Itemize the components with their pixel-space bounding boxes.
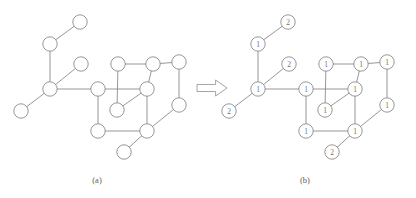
node-circle xyxy=(117,145,131,159)
node-label: 2 xyxy=(286,18,290,27)
graph-edge xyxy=(331,93,349,106)
node-label: 1 xyxy=(256,85,260,94)
graph-node[interactable] xyxy=(117,145,131,159)
graph-edge xyxy=(56,69,76,85)
graph-node[interactable] xyxy=(172,55,186,69)
graph-node[interactable]: 1 xyxy=(348,82,362,96)
node-label: 1 xyxy=(304,127,308,136)
graph-node[interactable]: 1 xyxy=(319,57,333,71)
graph-node[interactable]: 2 xyxy=(222,104,236,118)
panel-nodes-panel-b: 212121111111112 xyxy=(222,15,394,159)
graph-node[interactable] xyxy=(110,103,124,117)
graph-edge xyxy=(160,63,172,64)
graph-node[interactable] xyxy=(14,104,28,118)
node-label: 1 xyxy=(324,60,328,69)
graph-node[interactable] xyxy=(74,57,88,71)
graph-node[interactable]: 1 xyxy=(380,55,394,69)
node-label: 1 xyxy=(353,85,357,94)
graph-node[interactable] xyxy=(140,124,154,138)
graph-edge xyxy=(235,93,253,106)
node-circle xyxy=(146,57,160,71)
graph-node[interactable] xyxy=(91,124,105,138)
node-label: 1 xyxy=(256,40,260,49)
graph-edge xyxy=(27,93,45,106)
node-circle xyxy=(73,15,87,29)
graph-edge xyxy=(368,63,380,64)
graph-edge xyxy=(149,71,152,82)
node-circle xyxy=(111,57,125,71)
caption-b: (b) xyxy=(300,175,310,185)
arrow-layer xyxy=(197,80,227,96)
graph-node[interactable]: 2 xyxy=(325,145,339,159)
graph-node[interactable]: 2 xyxy=(281,15,295,29)
graph-node[interactable] xyxy=(43,82,57,96)
node-circle xyxy=(74,57,88,71)
graph-node[interactable] xyxy=(73,15,87,29)
node-circle xyxy=(110,103,124,117)
node-circle xyxy=(91,82,105,96)
node-label: 2 xyxy=(330,148,334,157)
figure-container: 212121111111112 (a)(b) xyxy=(0,0,416,198)
node-circle xyxy=(14,104,28,118)
graph-edge xyxy=(337,136,349,147)
graph-node[interactable]: 1 xyxy=(348,124,362,138)
node-label: 1 xyxy=(353,127,357,136)
graph-edge xyxy=(153,110,174,127)
graph-node[interactable] xyxy=(43,37,57,51)
graph-edge xyxy=(264,26,282,39)
graph-transformation-figure: 212121111111112 (a)(b) xyxy=(0,0,416,198)
node-circle xyxy=(91,124,105,138)
node-label: 1 xyxy=(304,85,308,94)
arrow-right-icon xyxy=(197,80,227,96)
node-circle xyxy=(172,55,186,69)
node-label: 1 xyxy=(385,101,389,110)
panel-nodes-panel-a xyxy=(14,15,186,159)
graph-node[interactable]: 1 xyxy=(299,124,313,138)
graph-edge xyxy=(357,71,360,82)
graph-node[interactable] xyxy=(140,82,154,96)
node-circle xyxy=(172,98,186,112)
graph-edge xyxy=(264,69,284,85)
captions-layer: (a)(b) xyxy=(92,175,310,185)
node-label: 2 xyxy=(287,60,291,69)
node-label: 2 xyxy=(227,107,231,116)
graph-edge xyxy=(325,71,326,103)
graph-node[interactable] xyxy=(91,82,105,96)
node-circle xyxy=(140,82,154,96)
graph-node[interactable]: 1 xyxy=(299,82,313,96)
node-label: 1 xyxy=(359,60,363,69)
graph-edge xyxy=(129,136,141,147)
graph-node[interactable]: 1 xyxy=(251,82,265,96)
graph-node[interactable] xyxy=(172,98,186,112)
graph-node[interactable]: 1 xyxy=(318,103,332,117)
graph-node[interactable] xyxy=(146,57,160,71)
graph-node[interactable]: 2 xyxy=(282,57,296,71)
caption-a: (a) xyxy=(92,175,102,185)
node-label: 1 xyxy=(385,58,389,67)
graph-edge xyxy=(123,93,141,106)
node-circle xyxy=(43,82,57,96)
graph-node[interactable]: 1 xyxy=(251,37,265,51)
graph-edge xyxy=(117,71,118,103)
node-circle xyxy=(43,37,57,51)
graph-node[interactable] xyxy=(111,57,125,71)
node-circle xyxy=(140,124,154,138)
node-label: 1 xyxy=(323,106,327,115)
graph-edge xyxy=(56,26,74,39)
graph-edge xyxy=(361,110,382,127)
graph-node[interactable]: 1 xyxy=(354,57,368,71)
graph-node[interactable]: 1 xyxy=(380,98,394,112)
